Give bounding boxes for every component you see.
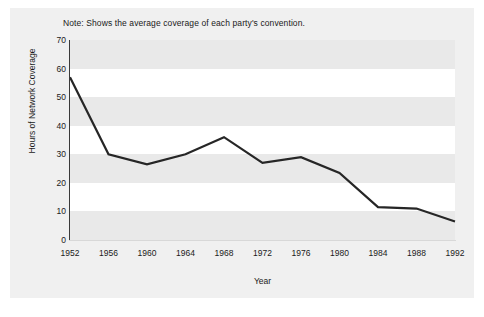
x-axis-title: Year <box>70 276 455 286</box>
x-axis-line <box>69 240 456 241</box>
y-tick-label: 70 <box>32 35 66 45</box>
x-tick-label: 1960 <box>138 248 157 258</box>
y-tick-label: 20 <box>32 178 66 188</box>
x-tick-label: 1984 <box>369 248 388 258</box>
y-axis-title: Hours of Network Coverage <box>27 41 37 161</box>
x-tick-label: 1964 <box>176 248 195 258</box>
x-tick-label: 1992 <box>446 248 465 258</box>
x-tick-label: 1968 <box>215 248 234 258</box>
y-tick-label: 0 <box>32 235 66 245</box>
y-tick-label: 60 <box>32 64 66 74</box>
y-tick-label: 10 <box>32 206 66 216</box>
plot-area <box>70 40 455 240</box>
series-line-hours-of-network-coverage <box>70 77 455 221</box>
x-tick-label: 1988 <box>407 248 426 258</box>
chart-figure: Note: Shows the average coverage of each… <box>10 8 474 298</box>
x-tick-label: 1956 <box>99 248 118 258</box>
x-tick-label: 1980 <box>330 248 349 258</box>
y-tick-label: 40 <box>32 121 66 131</box>
x-tick-label: 1952 <box>61 248 80 258</box>
x-axis-tick-labels: 1952195619601964196819721976198019841988… <box>70 248 455 262</box>
y-tick-label: 30 <box>32 149 66 159</box>
x-tick-label: 1972 <box>253 248 272 258</box>
y-tick-label: 50 <box>32 92 66 102</box>
y-axis-line <box>69 40 70 241</box>
chart-note: Note: Shows the average coverage of each… <box>63 18 305 28</box>
x-tick-label: 1976 <box>292 248 311 258</box>
line-series-svg <box>70 40 455 240</box>
